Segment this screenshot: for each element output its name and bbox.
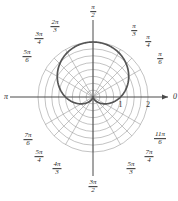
grid-spoke <box>45 97 93 125</box>
radial-tick-label-1: 1 <box>119 100 123 109</box>
angle-label-three-pi-over-2: 3π2 <box>88 179 97 195</box>
angle-label-pi-over-4: π4 <box>145 34 151 50</box>
fraction-denominator: 6 <box>22 58 31 65</box>
fraction: π2 <box>90 4 96 20</box>
fraction-denominator: 3 <box>131 32 137 39</box>
fraction-denominator: 3 <box>126 170 135 177</box>
polar-plot-canvas <box>0 0 178 201</box>
fraction: π3 <box>131 23 137 39</box>
angle-label-seven-pi-over-4: 7π4 <box>144 149 153 165</box>
angle-label-pi-over-6: π6 <box>157 51 163 67</box>
fraction-denominator: 4 <box>34 158 43 165</box>
fraction: 11π6 <box>154 131 166 147</box>
fraction-denominator: 6 <box>154 140 166 147</box>
fraction: 5π6 <box>22 49 31 65</box>
angle-label-pi-over-3: π3 <box>131 23 137 39</box>
grid-spoke <box>93 70 141 98</box>
fraction-denominator: 3 <box>50 28 59 35</box>
fraction-denominator: 3 <box>52 170 61 177</box>
fraction: 5π4 <box>34 149 43 165</box>
fraction: 3π2 <box>88 179 97 195</box>
fraction: 7π4 <box>144 149 153 165</box>
angle-label-four-pi-over-3: 4π3 <box>52 161 61 177</box>
radial-tick-label-2: 2 <box>146 100 150 109</box>
fraction: 2π3 <box>50 19 59 35</box>
polar-plot-figure: π2π3π4π62π33π45π67π65π44π33π25π37π411π6 … <box>0 0 178 201</box>
angle-label-pi-over-2: π2 <box>90 4 96 20</box>
fraction-denominator: 2 <box>88 188 97 195</box>
fraction-denominator: 6 <box>157 60 163 67</box>
axis-label-pi: π <box>4 92 8 101</box>
angle-label-five-pi-over-6: 5π6 <box>22 49 31 65</box>
grid-spoke <box>66 49 94 97</box>
angle-label-five-pi-over-3: 5π3 <box>126 161 135 177</box>
angle-label-three-pi-over-4: 3π4 <box>34 31 43 47</box>
fraction: 5π3 <box>126 161 135 177</box>
angle-label-five-pi-over-4: 5π4 <box>34 149 43 165</box>
angle-label-seven-pi-over-6: 7π6 <box>23 132 32 148</box>
fraction: 7π6 <box>23 132 32 148</box>
fraction-denominator: 4 <box>145 43 151 50</box>
fraction-denominator: 4 <box>34 40 43 47</box>
fraction-denominator: 6 <box>23 141 32 148</box>
axis-label-zero: 0 <box>173 92 177 101</box>
angle-label-two-pi-over-3: 2π3 <box>50 19 59 35</box>
fraction: π4 <box>145 34 151 50</box>
angle-label-eleven-pi-over-6: 11π6 <box>154 131 166 147</box>
x-axis-arrowhead <box>162 94 168 99</box>
grid-spoke <box>45 70 93 98</box>
fraction: 4π3 <box>52 161 61 177</box>
fraction: 3π4 <box>34 31 43 47</box>
grid-spoke <box>93 49 121 97</box>
fraction-denominator: 2 <box>90 13 96 20</box>
grid-spoke <box>93 97 141 125</box>
fraction-denominator: 4 <box>144 158 153 165</box>
fraction: π6 <box>157 51 163 67</box>
